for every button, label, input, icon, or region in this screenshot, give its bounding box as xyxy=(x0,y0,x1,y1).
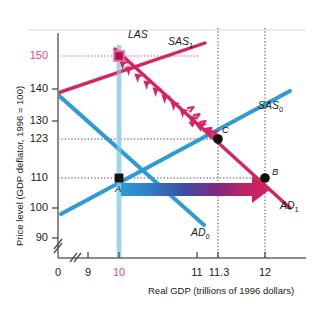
x-tick-label-9: 9 xyxy=(78,266,98,278)
y-tick-label-140: 140 xyxy=(20,82,48,94)
chart-canvas xyxy=(0,0,316,310)
x-tick-label-12: 12 xyxy=(255,266,275,278)
reference-lines xyxy=(58,28,265,258)
point-label-b: B xyxy=(272,166,278,177)
y-tick-label-150: 150 xyxy=(20,49,48,61)
las-label: LAS xyxy=(128,28,148,40)
ad1-label-sub: 1 xyxy=(295,205,299,214)
sas0-label-sub: 0 xyxy=(279,105,283,114)
point-marker-b xyxy=(260,173,270,183)
sas0-label-base: SAS xyxy=(258,99,279,111)
y-tick-label-130: 130 xyxy=(20,114,48,126)
y-axis-title: Price level (GDP deflator, 1996 = 100) xyxy=(14,86,25,246)
y-tick-label-100: 100 xyxy=(20,201,48,213)
x-tick-label-0: 0 xyxy=(48,266,68,278)
point-label-c: C xyxy=(222,124,229,135)
ad1-label-base: AD xyxy=(280,199,295,211)
ad0-label-base: AD xyxy=(191,226,206,238)
x-tick-label-11: 11 xyxy=(187,266,207,278)
ad0-curve xyxy=(46,84,204,225)
sas1-label-base: SAS xyxy=(168,35,189,47)
point-marker-a-prime xyxy=(114,51,124,61)
point-label-a-prime: A' xyxy=(124,62,132,73)
x-tick-label-10: 10 xyxy=(109,266,129,278)
axes xyxy=(52,33,306,262)
y-tick-label-123: 123 xyxy=(20,132,48,144)
sas0-label: SAS0 xyxy=(258,99,283,114)
x-axis-title: Real GDP (trillions of 1996 dollars) xyxy=(148,285,294,296)
x-tick-label-11-3: 11.3 xyxy=(205,266,233,278)
ad0-label-sub: 0 xyxy=(206,232,210,241)
point-marker-c xyxy=(213,134,223,144)
y-tick-label-90: 90 xyxy=(20,231,48,243)
sas1-label: SAS1 xyxy=(168,35,193,50)
ad-shift-arrow xyxy=(121,176,270,203)
y-tick-label-110: 110 xyxy=(20,171,48,183)
as-ad-chart-figure: Price level (GDP deflator, 1996 = 100) 1… xyxy=(0,0,316,310)
ad1-label: AD1 xyxy=(280,199,299,214)
sas1-label-sub: 1 xyxy=(189,41,193,50)
point-marker-a xyxy=(115,174,124,183)
point-label-a: A xyxy=(115,183,121,194)
ad0-label: AD0 xyxy=(191,226,210,241)
